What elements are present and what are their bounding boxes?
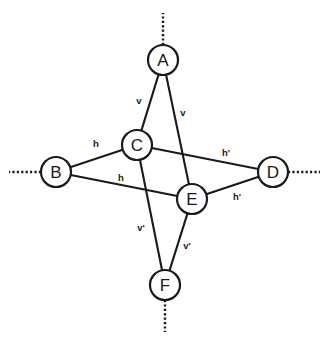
edge-label-B-E: h bbox=[118, 172, 124, 183]
node-B-label: B bbox=[50, 163, 61, 182]
node-A[interactable]: A bbox=[148, 45, 178, 75]
node-F[interactable]: F bbox=[150, 270, 180, 300]
edge-A-E bbox=[166, 75, 189, 185]
edge-layer bbox=[70, 74, 259, 270]
node-E-label: E bbox=[186, 190, 197, 209]
edge-A-C bbox=[141, 74, 158, 130]
edge-label-C-F: v' bbox=[137, 222, 145, 233]
edge-B-E bbox=[71, 175, 178, 196]
edge-label-B-C: h bbox=[93, 138, 99, 149]
edge-C-D bbox=[152, 148, 259, 169]
edge-label-E-F: v' bbox=[183, 240, 191, 251]
node-E[interactable]: E bbox=[177, 184, 207, 214]
node-F-label: F bbox=[160, 276, 170, 295]
graph-diagram: ABCDEF vvhhh'h'v'v' bbox=[0, 0, 329, 343]
diagram-canvas: ABCDEF vvhhh'h'v'v' bbox=[0, 0, 329, 343]
node-D-label: D bbox=[267, 163, 279, 182]
node-layer: ABCDEF bbox=[41, 45, 288, 300]
node-C[interactable]: C bbox=[122, 130, 152, 160]
edge-B-C bbox=[70, 150, 123, 168]
edge-C-F bbox=[140, 160, 162, 271]
edge-label-E-D: h' bbox=[233, 191, 241, 202]
node-B[interactable]: B bbox=[41, 157, 71, 187]
edge-label-A-E: v bbox=[180, 107, 186, 118]
node-C-label: C bbox=[131, 136, 143, 155]
edge-label-A-C: v bbox=[136, 95, 142, 106]
node-D[interactable]: D bbox=[258, 157, 288, 187]
edge-label-C-D: h' bbox=[222, 147, 230, 158]
node-A-label: A bbox=[157, 51, 169, 70]
edge-label-layer: vvhhh'h'v'v' bbox=[93, 95, 241, 251]
